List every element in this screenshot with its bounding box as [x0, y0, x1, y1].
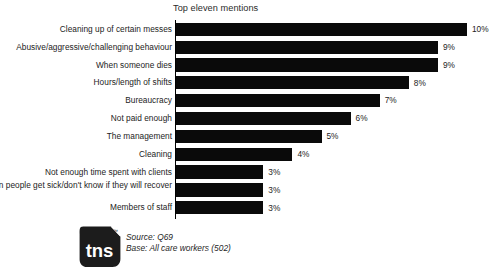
bar-row: Cleaning up of certain messes10% [0, 21, 493, 39]
bar-fill [176, 58, 438, 71]
bar-value-label: 9% [443, 60, 455, 70]
source-line: Source: Q69 [126, 232, 231, 243]
bar-fill [176, 148, 292, 161]
bar [176, 23, 467, 36]
tns-logo: tns ™ [79, 226, 121, 268]
chart-footer: tns ™ Source: Q69 Base: All care workers… [0, 224, 493, 269]
plot-area: Cleaning up of certain messes10%Abusive/… [0, 20, 493, 220]
bar-category-label: The management [0, 128, 172, 141]
bar-category-label: Cleaning up of certain messes [0, 21, 172, 34]
bar-value-label: 3% [268, 185, 280, 195]
chart-title: Top eleven mentions [173, 3, 258, 13]
bar [176, 148, 292, 161]
bar-value-label: 6% [356, 113, 368, 123]
bar-row: Abusive/aggressive/challenging behaviour… [0, 38, 493, 56]
bar-fill [176, 165, 263, 178]
bar-category-label: Members of staff [0, 199, 172, 212]
bar-category-label: When someone dies [0, 56, 172, 69]
bar-category-label: Not enough time spent with clients [0, 163, 172, 176]
base-line: Base: All care workers (502) [126, 243, 231, 254]
bar-fill [176, 201, 263, 214]
bar-value-label: 8% [414, 78, 426, 88]
bar-category-label: Bureaucracy [0, 92, 172, 105]
bar [176, 94, 380, 107]
bar-value-label: 7% [385, 95, 397, 105]
bar [176, 130, 322, 143]
bar-row: Not paid enough6% [0, 110, 493, 128]
bar-category-label: When people get sick/don't know if they … [0, 181, 172, 190]
bar-fill [176, 94, 380, 107]
bar-fill [176, 130, 322, 143]
trademark-icon: ™ [113, 228, 118, 234]
bar [176, 183, 263, 196]
source-note: Source: Q69 Base: All care workers (502) [126, 232, 231, 255]
bar-row: Not enough time spent with clients3% [0, 163, 493, 181]
bar-value-label: 3% [268, 167, 280, 177]
bar-row: When someone dies9% [0, 56, 493, 74]
bar-fill [176, 112, 351, 125]
bar-fill [176, 23, 467, 36]
bar-category-label: Cleaning [0, 145, 172, 158]
bar-row: Cleaning4% [0, 145, 493, 163]
tns-logo-wordmark: tns [86, 240, 114, 261]
bar [176, 58, 438, 71]
bar-category-label: Abusive/aggressive/challenging behaviour [0, 38, 172, 51]
bar [176, 41, 438, 54]
bar-fill [176, 76, 409, 89]
bar-row: Members of staff3% [0, 199, 493, 217]
bar [176, 201, 263, 214]
bar-value-label: 10% [472, 24, 489, 34]
bar [176, 165, 263, 178]
bar-value-label: 9% [443, 42, 455, 52]
bar-fill [176, 41, 438, 54]
bar-category-label: Hours/length of shifts [0, 74, 172, 87]
bar-category-label: Not paid enough [0, 110, 172, 123]
bar-row: Hours/length of shifts8% [0, 74, 493, 92]
bar [176, 112, 351, 125]
bar-value-label: 5% [327, 131, 339, 141]
bar-value-label: 3% [268, 203, 280, 213]
bar-fill [176, 183, 263, 196]
bar-row: When people get sick/don't know if they … [0, 181, 493, 199]
bar-row: The management5% [0, 128, 493, 146]
bar [176, 76, 409, 89]
bar-value-label: 4% [297, 149, 309, 159]
bar-chart: Top eleven mentions Cleaning up of certa… [0, 0, 493, 269]
bar-row: Bureaucracy7% [0, 92, 493, 110]
